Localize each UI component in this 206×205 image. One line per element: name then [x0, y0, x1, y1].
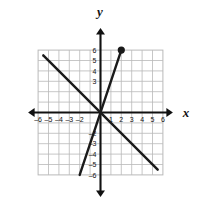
- x-tick-label: –2: [76, 116, 84, 123]
- x-tick-label: 5: [151, 116, 155, 123]
- x-axis-label: x: [182, 105, 190, 120]
- y-tick-label: –5: [89, 161, 97, 168]
- y-axis-label: y: [95, 4, 103, 19]
- y-tick-label: 5: [93, 57, 97, 64]
- y-tick-label: –6: [89, 172, 97, 179]
- x-tick-label: –3: [65, 116, 73, 123]
- x-tick-label: 6: [161, 116, 165, 123]
- x-tick-label: 4: [140, 116, 144, 123]
- graph-canvas: –6–5–4–3–21234566543–2–3–4–5–6 x y: [0, 0, 206, 205]
- y-tick-label: 4: [93, 68, 97, 75]
- x-tick-label: –5: [45, 116, 53, 123]
- x-tick-label: –6: [34, 116, 42, 123]
- line-endpoint-dot: [118, 47, 124, 53]
- y-tick-label: 6: [93, 47, 97, 54]
- x-tick-label: –4: [55, 116, 63, 123]
- coordinate-plane-figure: –6–5–4–3–21234566543–2–3–4–5–6 x y: [0, 0, 206, 205]
- y-tick-label: 3: [93, 78, 97, 85]
- x-tick-label: 2: [119, 116, 123, 123]
- x-tick-label: 3: [130, 116, 134, 123]
- y-tick-label: –4: [89, 151, 97, 158]
